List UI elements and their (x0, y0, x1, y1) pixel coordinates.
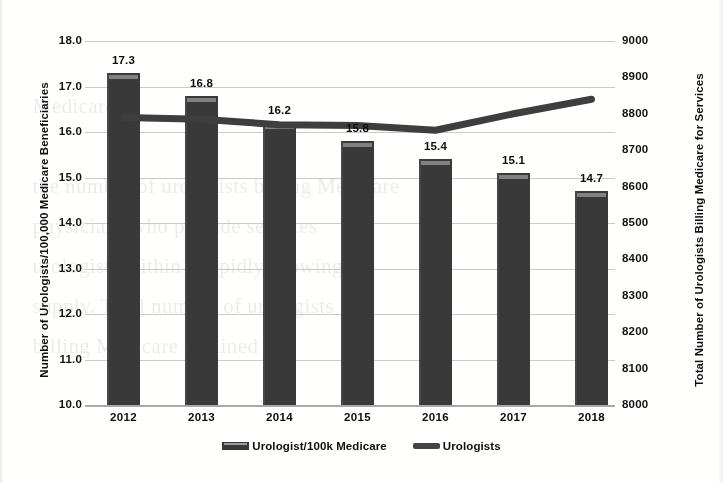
right-axis-tick-label: 9000 (622, 34, 648, 46)
left-axis-tick-label: 15.0 (59, 171, 82, 183)
right-axis-tick-label: 8100 (622, 362, 648, 374)
page-edge-right (719, 0, 723, 483)
x-axis-baseline (85, 405, 615, 407)
left-axis-tick-label: 14.0 (59, 216, 82, 228)
bar-data-label-2015: 15.8 (328, 122, 388, 134)
bar-2013[interactable] (185, 96, 218, 405)
right-axis-tick-label: 8900 (622, 70, 648, 82)
legend-item-urologists[interactable]: Urologists (413, 440, 501, 452)
right-axis-tick-label: 8300 (622, 289, 648, 301)
x-axis-tick-2018: 2018 (557, 411, 627, 423)
right-axis-tick-label: 8500 (622, 216, 648, 228)
right-axis-title: Total Number of Urologists Billing Medic… (693, 50, 705, 410)
bar-2012[interactable] (107, 73, 140, 405)
x-axis-tick-2012: 2012 (89, 411, 159, 423)
bar-data-label-2017: 15.1 (484, 154, 544, 166)
left-axis-tick-label: 16.0 (59, 125, 82, 137)
left-axis-tick-label: 12.0 (59, 307, 82, 319)
bar-2015[interactable] (341, 141, 374, 405)
x-axis-tick-2016: 2016 (401, 411, 471, 423)
left-axis-tick-label: 13.0 (59, 262, 82, 274)
bar-data-label-2018: 14.7 (562, 172, 622, 184)
bar-data-label-2013: 16.8 (172, 77, 232, 89)
bar-data-label-2012: 17.3 (94, 54, 154, 66)
left-axis-tick-label: 10.0 (59, 398, 82, 410)
chart-legend: Urologist/100k Medicare Urologists (0, 440, 723, 452)
left-axis-tick-label: 18.0 (59, 34, 82, 46)
right-axis-tick-label: 8400 (622, 252, 648, 264)
bar-2016[interactable] (419, 159, 452, 405)
page-edge-left (0, 0, 3, 483)
chart-plot-area: 18.017.016.015.014.013.012.011.010.0 900… (0, 0, 723, 483)
gridline (85, 87, 615, 88)
left-axis-title: Number of Urologists/100,000 Medicare Be… (38, 65, 50, 395)
bar-2014[interactable] (263, 123, 296, 405)
bar-data-label-2016: 15.4 (406, 140, 466, 152)
right-axis-tick-label: 8800 (622, 107, 648, 119)
scanned-page-background: Medicare the number of urologists billin… (0, 0, 723, 483)
bar-swatch-icon (222, 442, 249, 450)
gridline (85, 41, 615, 42)
x-axis-tick-2014: 2014 (245, 411, 315, 423)
legend-item-urologist-per-100k[interactable]: Urologist/100k Medicare (222, 440, 387, 452)
x-axis-tick-2013: 2013 (167, 411, 237, 423)
x-axis-tick-2017: 2017 (479, 411, 549, 423)
x-axis-tick-2015: 2015 (323, 411, 393, 423)
bar-data-label-2014: 16.2 (250, 104, 310, 116)
bar-2018[interactable] (575, 191, 608, 405)
left-axis-tick-label: 17.0 (59, 80, 82, 92)
right-axis-tick-label: 8200 (622, 325, 648, 337)
line-swatch-icon (413, 443, 440, 449)
right-axis-tick-label: 8700 (622, 143, 648, 155)
legend-label-urologists: Urologists (443, 440, 501, 452)
left-axis-tick-label: 11.0 (59, 353, 82, 365)
legend-label-urologist-per-100k: Urologist/100k Medicare (252, 440, 387, 452)
bar-2017[interactable] (497, 173, 530, 405)
right-axis-tick-label: 8000 (622, 398, 648, 410)
right-axis-tick-label: 8600 (622, 180, 648, 192)
